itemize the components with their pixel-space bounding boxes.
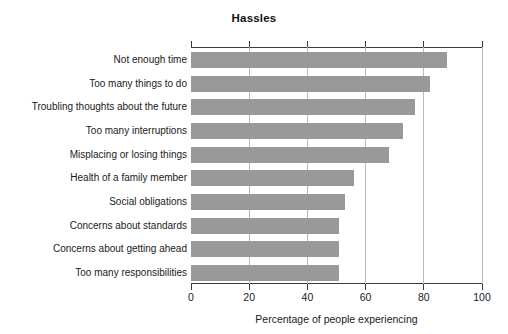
- tick-bottom-40: [307, 284, 308, 290]
- category-label: Concerns about standards: [1, 221, 187, 231]
- bar: [191, 218, 339, 234]
- bar: [191, 265, 339, 281]
- gridline-100: [482, 47, 483, 284]
- category-label: Too many interruptions: [1, 126, 187, 136]
- tick-bottom-80: [423, 284, 424, 290]
- chart-title: Hassles: [0, 12, 508, 24]
- tick-top-100: [482, 41, 483, 47]
- page-top-text-sliver: · · ·: [150, 0, 400, 4]
- category-label: Too many responsibilities: [1, 268, 187, 278]
- tick-top-40: [307, 41, 308, 47]
- bar: [191, 170, 354, 186]
- x-tick-label: 0: [171, 292, 211, 303]
- plot-area: [191, 47, 482, 284]
- bar: [191, 147, 389, 163]
- bar: [191, 99, 415, 115]
- category-axis-labels: Not enough timeToo many things to doTrou…: [0, 47, 187, 284]
- chart-page: · · · Hassles Not enough timeToo many th…: [0, 0, 508, 334]
- tick-top-20: [249, 41, 250, 47]
- axis-line-bottom: [191, 283, 482, 284]
- category-label: Not enough time: [1, 55, 187, 65]
- bar: [191, 194, 345, 210]
- category-label: Misplacing or losing things: [1, 150, 187, 160]
- bar: [191, 241, 339, 257]
- x-tick-label: 100: [462, 292, 502, 303]
- x-tick-label: 60: [346, 292, 386, 303]
- tick-top-80: [423, 41, 424, 47]
- x-tick-label: 40: [287, 292, 327, 303]
- category-label: Too many things to do: [1, 79, 187, 89]
- axis-line-top: [191, 47, 482, 48]
- tick-bottom-0: [191, 284, 192, 290]
- tick-top-60: [365, 41, 366, 47]
- category-label: Health of a family member: [1, 173, 187, 183]
- category-label: Concerns about getting ahead: [1, 244, 187, 254]
- x-tick-label: 80: [404, 292, 444, 303]
- tick-bottom-60: [365, 284, 366, 290]
- category-label: Social obligations: [1, 197, 187, 207]
- tick-bottom-100: [482, 284, 483, 290]
- category-label: Troubling thoughts about the future: [1, 102, 187, 112]
- tick-bottom-20: [249, 284, 250, 290]
- tick-top-0: [191, 41, 192, 47]
- bar: [191, 52, 447, 68]
- x-tick-label: 20: [229, 292, 269, 303]
- bar: [191, 123, 403, 139]
- x-axis-title: Percentage of people experiencing: [191, 313, 482, 325]
- bar: [191, 76, 430, 92]
